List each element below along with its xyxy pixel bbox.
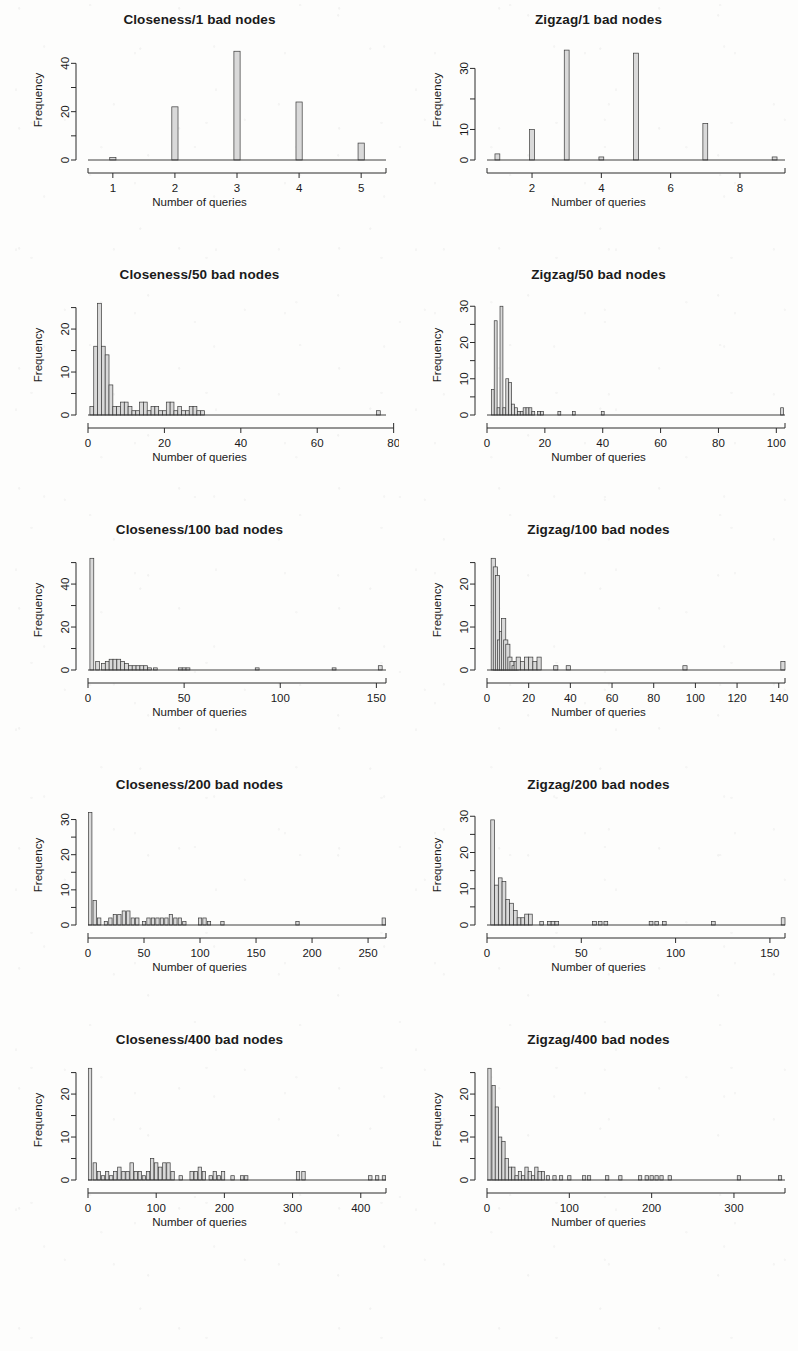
- x-axis-tick-label: 60: [606, 692, 619, 704]
- y-axis-tick-label: 0: [458, 922, 470, 928]
- x-axis-tick-label: 2: [172, 182, 178, 194]
- histogram-bar: [169, 914, 172, 925]
- histogram-bar: [90, 558, 94, 670]
- histogram-bar: [97, 1171, 100, 1180]
- histogram-bar: [523, 408, 526, 415]
- histogram-bar: [554, 666, 558, 670]
- histogram-bar: [564, 50, 569, 160]
- x-axis-tick-label: 150: [246, 947, 265, 959]
- histogram-bar: [528, 1171, 531, 1180]
- histogram-bar: [171, 1171, 174, 1180]
- histogram-bar: [619, 1176, 622, 1180]
- panel-closeness-400: Closeness/400 bad nodes Frequency Number…: [0, 1020, 399, 1275]
- histogram-bar: [125, 664, 129, 670]
- histogram-bar: [178, 406, 182, 415]
- histogram-bar: [105, 355, 109, 415]
- histogram-bar: [514, 408, 517, 415]
- histogram-bar: [96, 661, 100, 670]
- histogram-bar: [245, 1176, 248, 1180]
- histogram-bar: [147, 918, 150, 925]
- histogram-bar: [203, 918, 206, 925]
- histogram-bar: [190, 1171, 193, 1180]
- histogram-bar: [213, 1171, 216, 1180]
- histogram-bar: [513, 911, 517, 926]
- histogram-bar: [606, 1176, 609, 1180]
- histogram-bar: [683, 666, 687, 670]
- histogram-bar: [101, 664, 105, 670]
- histogram-bar: [529, 408, 532, 415]
- histogram-bar: [382, 1176, 385, 1180]
- panel-closeness-200: Closeness/200 bad nodes Frequency Number…: [0, 765, 399, 1020]
- histogram-bar: [136, 411, 140, 415]
- x-axis-tick-label: 20: [522, 692, 535, 704]
- histogram-bar: [551, 921, 555, 925]
- histogram-bar: [587, 1176, 590, 1180]
- histogram-bar: [530, 129, 535, 160]
- x-axis-tick-label: 100: [560, 1202, 579, 1214]
- histogram-bar: [194, 1171, 197, 1180]
- histogram-bar: [170, 402, 174, 415]
- x-axis-tick-label: 0: [484, 1202, 490, 1214]
- x-axis-tick-label: 100: [767, 437, 786, 449]
- histogram-bar: [495, 154, 500, 160]
- histogram-bar: [538, 411, 541, 415]
- y-axis-tick-label: 10: [458, 882, 470, 895]
- histogram-bar: [781, 408, 784, 415]
- histogram-bar: [201, 411, 205, 415]
- histogram-bar: [240, 1176, 243, 1180]
- histogram-bar: [375, 1176, 378, 1180]
- histogram-plot: 010200100200300: [399, 1020, 798, 1275]
- x-axis-tick-label: 80: [387, 437, 399, 449]
- x-axis-tick-label: 40: [234, 437, 247, 449]
- histogram-bar: [668, 1176, 671, 1180]
- histogram-bar: [189, 406, 193, 415]
- histogram-plot: 01020020406080: [0, 255, 399, 510]
- histogram-bar: [147, 411, 151, 415]
- y-axis-tick-label: 20: [59, 621, 71, 634]
- histogram-bar: [130, 1163, 133, 1180]
- histogram-bar: [117, 406, 121, 415]
- histogram-bar: [185, 411, 189, 415]
- y-axis-tick-label: 10: [59, 1131, 71, 1144]
- x-axis-tick-label: 80: [647, 692, 660, 704]
- histogram-bar: [151, 918, 154, 925]
- panel-zigzag-200: Zigzag/200 bad nodes Frequency Number of…: [399, 765, 798, 1020]
- panel-closeness-50: Closeness/50 bad nodes Frequency Number …: [0, 255, 399, 510]
- panel-zigzag-50: Zigzag/50 bad nodes Frequency Number of …: [399, 255, 798, 510]
- histogram-bar: [113, 914, 116, 925]
- histogram-bar: [369, 1176, 372, 1180]
- y-axis-tick-label: 30: [458, 810, 470, 823]
- histogram-bar: [526, 408, 529, 415]
- histogram-bar: [500, 306, 503, 415]
- x-axis-tick-label: 0: [85, 437, 91, 449]
- histogram-bar: [126, 1171, 129, 1180]
- histogram-bar: [159, 1167, 162, 1180]
- histogram-bar: [109, 659, 113, 670]
- histogram-bar: [601, 411, 604, 415]
- histogram-bar: [150, 1159, 153, 1180]
- histogram-bar: [781, 918, 785, 925]
- histogram-bar: [142, 1176, 145, 1180]
- histogram-bar: [492, 1085, 495, 1180]
- x-axis-tick-label: 100: [666, 947, 685, 959]
- histogram-bar: [649, 921, 653, 925]
- y-axis-tick-label: 10: [458, 621, 470, 634]
- x-axis-tick-label: 140: [769, 692, 788, 704]
- histogram-bar: [781, 661, 785, 670]
- histogram-bar: [494, 321, 497, 415]
- y-axis-tick-label: 20: [59, 105, 71, 118]
- y-axis-tick-label: 0: [59, 922, 71, 928]
- x-axis-tick-label: 0: [484, 437, 490, 449]
- x-axis-tick-label: 0: [484, 692, 490, 704]
- histogram-bar: [532, 411, 535, 415]
- x-axis-tick-label: 20: [538, 437, 551, 449]
- y-axis-tick-label: 0: [458, 1177, 470, 1183]
- histogram-bar: [138, 1171, 141, 1180]
- histogram-bar: [662, 921, 666, 925]
- histogram-bar: [151, 406, 155, 415]
- y-axis-tick-label: 20: [458, 336, 470, 349]
- histogram-bar: [132, 411, 136, 415]
- histogram-bar: [142, 921, 145, 925]
- histogram-bar: [117, 659, 121, 670]
- histogram-bar: [124, 402, 128, 415]
